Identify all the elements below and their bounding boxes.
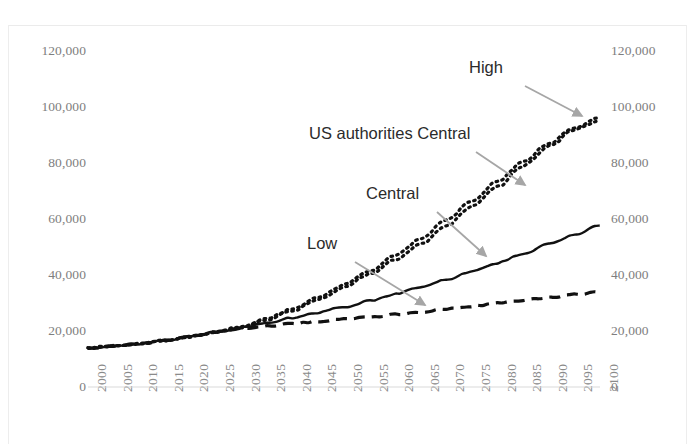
annotation-arrow-high: [525, 86, 582, 116]
chart-plot-area: [0, 0, 695, 444]
annotation-arrow-low: [355, 262, 425, 305]
series-line-central: [88, 226, 600, 349]
chart-series: [88, 118, 600, 349]
chart-figure: 120,000 100,000 80,000 60,000 40,000 20,…: [0, 0, 695, 444]
series-line-us-authorities-central: [88, 120, 600, 348]
series-line-low: [88, 292, 600, 349]
annotation-arrow-central: [437, 212, 486, 256]
series-line-high: [88, 118, 600, 348]
